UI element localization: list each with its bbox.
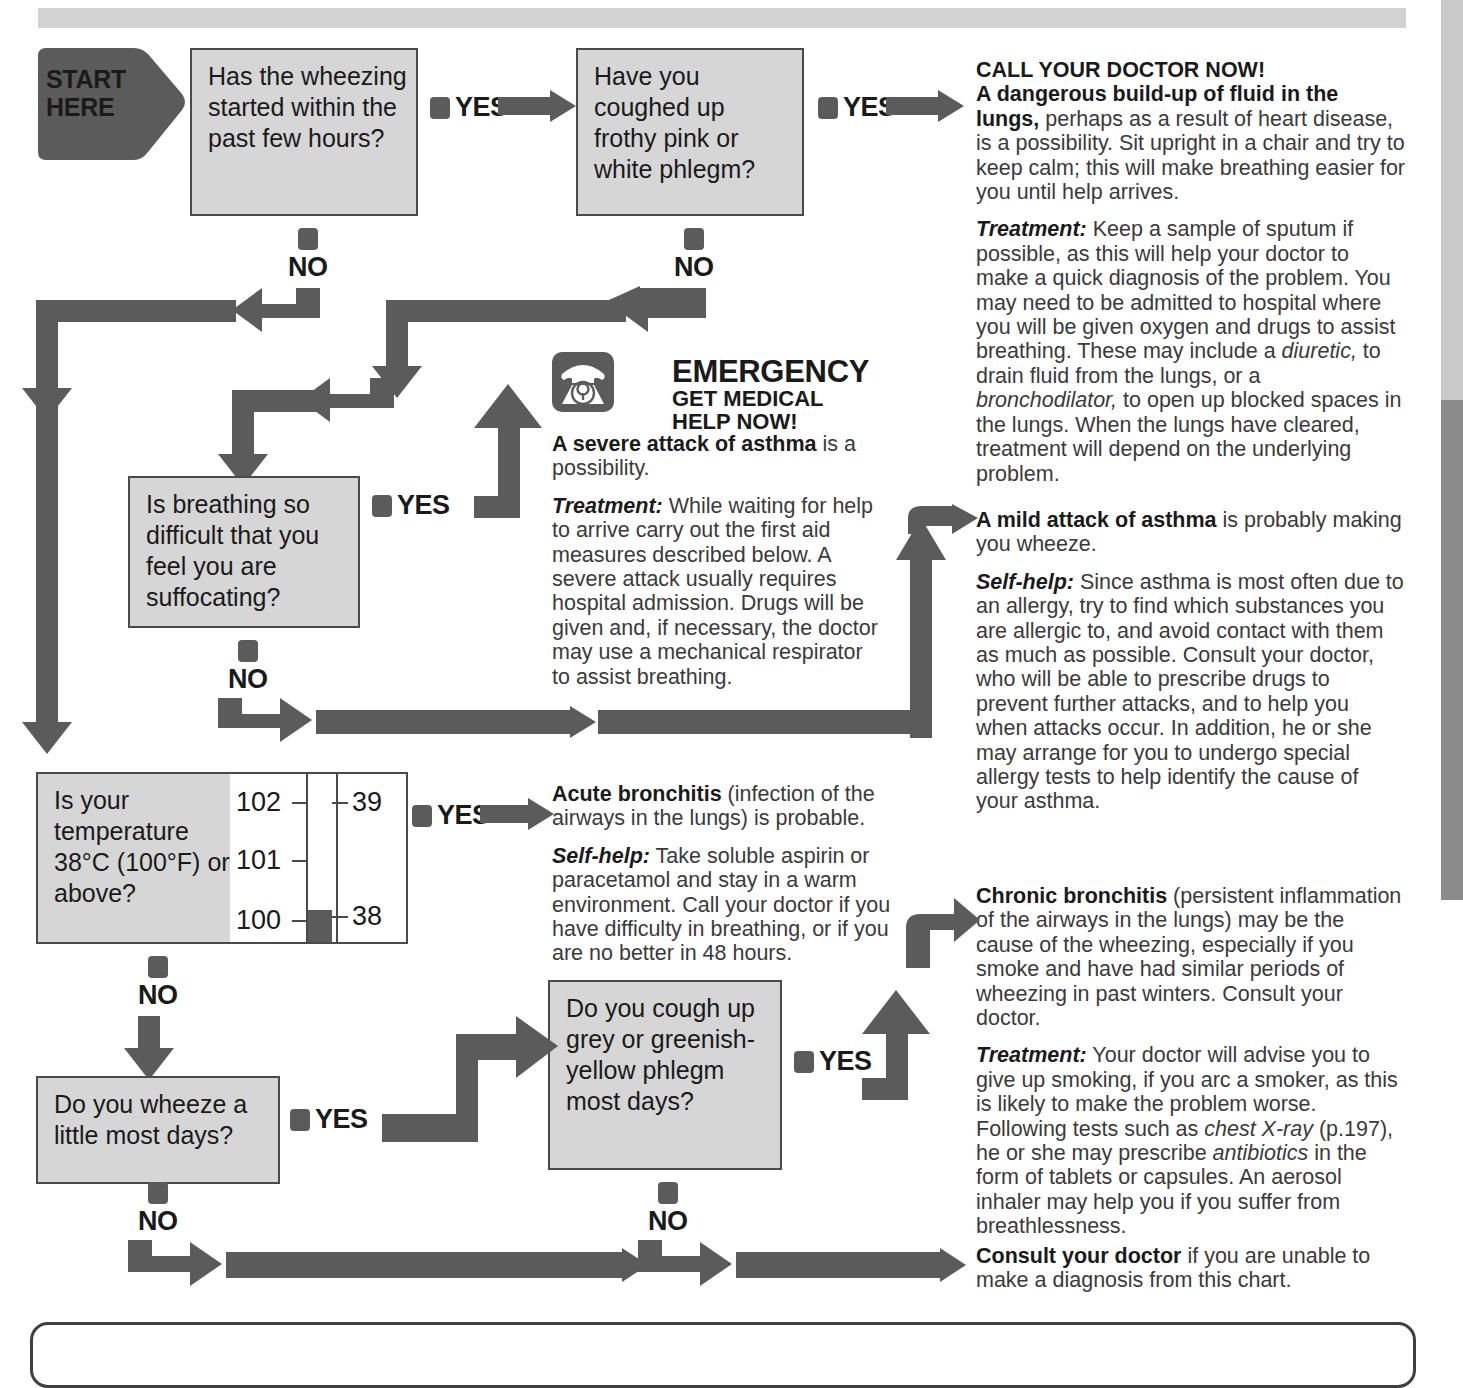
yes-marker-square — [372, 495, 392, 517]
chronic-bronchitis-lead-bold: Chronic bronchitis — [976, 884, 1167, 908]
q4-yes-label: YES — [412, 800, 490, 831]
question-q4-text: Is your temperature 38°C (100°F) or abov… — [54, 785, 244, 909]
yes-marker-square — [290, 1109, 310, 1131]
arrow-bus-left-top — [36, 300, 236, 322]
thermometer-label-c39: 39 — [352, 787, 382, 818]
arrow-q2-yes-to-call-doctor — [886, 90, 966, 122]
emergency-heading-line2: GET MEDICAL — [672, 387, 869, 410]
arrow-q6-yes-up — [862, 990, 932, 1100]
no-text: NO — [228, 664, 268, 695]
question-box-q4[interactable]: Is your temperature 38°C (100°F) or abov… — [36, 772, 408, 944]
q6-no-label: NO — [648, 1182, 688, 1237]
arrow-head-into-mild-asthma — [908, 504, 980, 540]
no-marker-square — [148, 1182, 168, 1204]
consult-doctor-lead-bold: Consult your doctor — [976, 1244, 1181, 1268]
arrow-q1-no-elbow — [232, 288, 322, 332]
start-here-label-line2: HERE — [46, 94, 114, 121]
question-q6-text: Do you cough up grey or greenish-yellow … — [566, 993, 772, 1117]
question-box-q2[interactable]: Have you coughed up frothy pink or white… — [576, 48, 804, 216]
no-marker-square — [148, 956, 168, 978]
no-marker-square — [238, 640, 258, 662]
call-doctor-lead-rest: perhaps as a result of heart disease, is… — [976, 107, 1405, 204]
question-q3-text: Is breathing so difficult that you feel … — [146, 489, 350, 613]
call-doctor-em-diuretic: diuretic, — [1282, 339, 1357, 363]
bottom-panel — [30, 1322, 1416, 1388]
chronic-bronchitis-em-xray: chest X-ray — [1204, 1117, 1313, 1141]
arrow-q1-yes-to-q2 — [498, 90, 578, 122]
q5-no-label: NO — [138, 1182, 178, 1237]
start-here-arrow: START HERE — [30, 42, 190, 172]
thermometer-tick-f100 — [292, 920, 308, 922]
call-doctor-heading: CALL YOUR DOCTOR NOW! — [976, 58, 1265, 82]
call-doctor-em-bronchodilator: bronchodilator, — [976, 388, 1117, 412]
telephone-icon — [552, 352, 614, 412]
question-q2-text: Have you coughed up frothy pink or white… — [594, 61, 794, 185]
question-box-q5[interactable]: Do you wheeze a little most days? — [36, 1076, 280, 1184]
q5-yes-label: YES — [290, 1104, 368, 1135]
no-text: NO — [138, 980, 178, 1011]
arrow-q5-yes-up-to-q6 — [382, 1016, 558, 1144]
arrow-to-consult-doctor — [736, 1248, 968, 1282]
severe-asthma-treatment-text: While waiting for help to arrive carry o… — [552, 494, 878, 689]
q1-no-label: NO — [288, 228, 328, 283]
yes-marker-square — [818, 97, 838, 119]
yes-text: YES — [315, 1104, 368, 1135]
thermometer-tick-f101 — [292, 860, 308, 862]
arrow-bus-to-mild-asthma-2 — [598, 706, 920, 738]
thermometer-tick-c39 — [332, 802, 348, 804]
yes-marker-square — [412, 805, 432, 827]
q2-yes-label: YES — [818, 92, 896, 123]
no-text: NO — [138, 1206, 178, 1237]
arrow-q3-no-elbow — [218, 698, 314, 742]
no-marker-square — [684, 228, 704, 250]
arrow-q4-no-head — [124, 1040, 174, 1080]
q4-no-label: NO — [138, 956, 178, 1011]
no-text: NO — [648, 1206, 688, 1237]
question-box-q6[interactable]: Do you cough up grey or greenish-yellow … — [548, 980, 782, 1170]
arrow-bus-mid-top — [386, 300, 626, 322]
thermometer-label-f100: 100 — [236, 905, 281, 936]
arrow-q6-no-elbow — [638, 1240, 734, 1286]
advice-severe-asthma: A severe attack of asthma is a possibili… — [552, 432, 882, 689]
question-box-q1[interactable]: Has the wheezing started within the past… — [190, 48, 418, 216]
advice-mild-asthma: A mild attack of asthma is probably maki… — [976, 508, 1406, 814]
thermometer-graphic: 102 101 100 39 38 — [230, 774, 406, 942]
question-q1-text: Has the wheezing started within the past… — [208, 61, 408, 154]
advice-call-your-doctor: CALL YOUR DOCTOR NOW! A dangerous build-… — [976, 58, 1406, 486]
q3-yes-label: YES — [372, 490, 450, 521]
arrow-q5-no-elbow — [128, 1240, 224, 1286]
arrow-up-to-mild-asthma — [896, 508, 946, 738]
yes-marker-square — [430, 97, 450, 119]
q3-no-label: NO — [228, 640, 268, 695]
page-header-bar — [38, 8, 1406, 28]
arrow-head-into-chronic-bronchitis — [906, 898, 982, 968]
emergency-heading: EMERGENCY GET MEDICAL HELP NOW! — [672, 356, 869, 433]
yes-text: YES — [397, 490, 450, 521]
acute-bronchitis-selfhelp-label: Self-help: — [552, 844, 650, 868]
severe-asthma-treatment-label: Treatment: — [552, 494, 663, 518]
arrow-q4-yes-to-acute-bronchitis — [480, 798, 556, 830]
telephone-icon-glyph — [552, 352, 614, 412]
mild-asthma-selfhelp-label: Self-help: — [976, 570, 1074, 594]
arrow-bus-right-feed — [600, 286, 700, 322]
chronic-bronchitis-em-antibiotics: antibiotics — [1213, 1141, 1309, 1165]
arrow-left-to-q4-head — [22, 712, 72, 754]
advice-chronic-bronchitis: Chronic bronchitis (persistent inflammat… — [976, 884, 1406, 1239]
thermometer-label-f101: 101 — [236, 845, 281, 876]
severe-asthma-lead-bold: A severe attack of asthma — [552, 432, 817, 456]
start-here-label-line1: START — [46, 66, 126, 93]
arrow-bus-to-mild-asthma-1 — [316, 706, 598, 738]
no-marker-square — [298, 228, 318, 250]
call-doctor-treatment-label: Treatment: — [976, 217, 1087, 241]
yes-marker-square — [794, 1051, 814, 1073]
advice-consult-your-doctor: Consult your doctor if you are unable to… — [976, 1244, 1406, 1293]
question-box-q3[interactable]: Is breathing so difficult that you feel … — [128, 476, 360, 628]
q1-yes-label: YES — [430, 92, 508, 123]
q6-yes-label: YES — [794, 1046, 872, 1077]
emergency-heading-line1: EMERGENCY — [672, 356, 869, 387]
mild-asthma-lead-bold: A mild attack of asthma — [976, 508, 1217, 532]
question-q5-text: Do you wheeze a little most days? — [54, 1089, 270, 1151]
acute-bronchitis-lead-bold: Acute bronchitis — [552, 782, 722, 806]
chronic-bronchitis-treatment-label: Treatment: — [976, 1043, 1087, 1067]
arrow-q3-yes-up-to-emergency — [474, 384, 544, 518]
